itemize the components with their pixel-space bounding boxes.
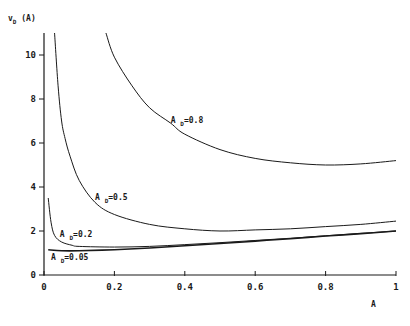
curve-label: A D=0.05 — [51, 253, 89, 264]
curve-label: A D=0.5 — [95, 193, 128, 204]
axes: 00.20.40.60.810246810AvD (A) — [8, 14, 399, 309]
y-tick-label: 0 — [31, 270, 36, 280]
curve-a-d-0-05 — [48, 231, 396, 251]
x-tick-label: 0.8 — [317, 282, 333, 292]
y-tick-label: 6 — [31, 138, 36, 148]
x-tick-label: 0 — [41, 282, 46, 292]
y-tick-label: 8 — [31, 94, 36, 104]
curves — [48, 33, 396, 251]
y-tick-label: 10 — [25, 50, 36, 60]
curve-a-d-0-8 — [106, 33, 396, 165]
x-tick-label: 0.6 — [247, 282, 263, 292]
x-tick-label: 0.2 — [106, 282, 122, 292]
curve-a-d-0-2 — [48, 198, 396, 247]
chart: 00.20.40.60.810246810AvD (A) A D=0.8A D=… — [0, 0, 410, 326]
y-tick-label: 2 — [31, 226, 36, 236]
x-tick-label: 1 — [393, 282, 398, 292]
y-tick-label: 4 — [31, 182, 37, 192]
curve-labels: A D=0.8A D=0.5A D=0.2A D=0.05 — [51, 116, 203, 263]
curve-label: A D=0.2 — [60, 230, 93, 241]
y-axis-label: vD (A) — [8, 14, 36, 25]
x-tick-label: 0.4 — [177, 282, 194, 292]
x-axis-label: A — [371, 300, 376, 309]
curve-label: A D=0.8 — [171, 116, 204, 127]
